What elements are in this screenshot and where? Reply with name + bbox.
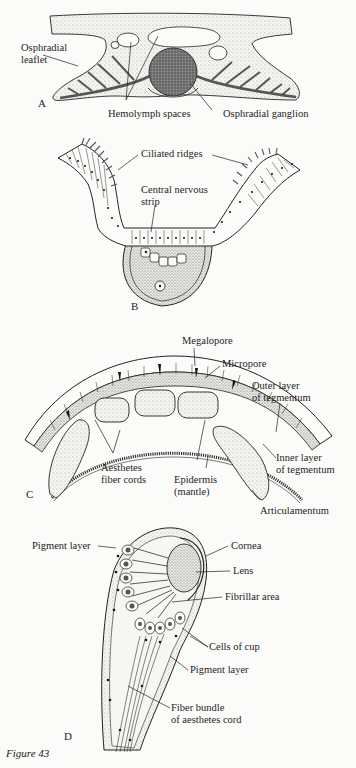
osphradial-ganglion — [149, 48, 197, 96]
label-outer-layer-line1: Outer layer — [252, 380, 300, 392]
lens — [167, 544, 201, 592]
label-articulamentum: Articulamentum — [260, 505, 329, 517]
panel-letter-c: C — [26, 488, 33, 500]
label-fiber-bundle-line2: of aesthetes cord — [171, 714, 242, 726]
label-fibrillar-area: Fibrillar area — [225, 591, 280, 603]
cup-base — [123, 244, 212, 306]
label-osphradial-leaflet-line2: leaflet — [21, 54, 47, 66]
label-inner-layer-line2: of tegmentum — [276, 464, 335, 476]
hemolymph-space — [117, 33, 139, 47]
label-inner-layer-line1: Inner layer — [276, 452, 322, 464]
label-ciliated-ridges: Ciliated ridges — [141, 148, 203, 160]
label-aesthetes-line1: Aesthetes — [101, 462, 142, 474]
panel-a-drawing — [43, 13, 299, 110]
label-osphradial-ganglion: Osphradial ganglion — [223, 108, 308, 120]
label-osphradial-leaflet-line1: Osphradial — [21, 42, 67, 54]
label-epidermis-line1: Epidermis — [174, 474, 217, 486]
label-aesthetes-line2: fiber cords — [101, 474, 146, 486]
label-hemolymph-spaces: Hemolymph spaces — [108, 108, 191, 120]
label-fiber-bundle-line1: Fiber bundle — [171, 702, 224, 714]
panel-b-drawing — [58, 138, 300, 306]
hemolymph-space — [111, 42, 119, 49]
label-cornea: Cornea — [231, 540, 261, 552]
figure-caption: Figure 43 — [6, 747, 49, 759]
label-outer-layer-line2: of tegmentum — [252, 392, 311, 404]
label-megalopore: Megalopore — [182, 335, 233, 347]
panel-letter-d: D — [64, 730, 72, 742]
hemolymph-space — [148, 27, 220, 47]
label-pigment-layer-bottom: Pigment layer — [190, 664, 249, 676]
label-lens: Lens — [233, 565, 253, 577]
label-cells-of-cup: Cells of cup — [209, 641, 260, 653]
hemolymph-space — [209, 46, 227, 60]
label-central-nervous-line1: Central nervous — [141, 184, 208, 196]
articulamentum — [49, 420, 269, 500]
panel-letter-b: B — [131, 300, 138, 312]
label-micropore: Micropore — [222, 358, 266, 370]
label-epidermis-line2: (mantle) — [174, 486, 210, 498]
label-central-nervous-line2: strip — [141, 196, 160, 208]
label-pigment-layer-top: Pigment layer — [32, 540, 91, 552]
panel-letter-a: A — [38, 97, 46, 109]
